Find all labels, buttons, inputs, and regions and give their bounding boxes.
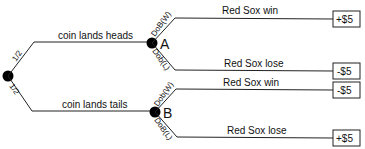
tails-prob: 1/2: [7, 82, 21, 97]
b-lose-payoff: +$5: [336, 133, 353, 144]
heads-prob: 1/2: [10, 48, 24, 63]
node-b-label: B: [163, 105, 172, 121]
heads-branch-line: [8, 42, 152, 76]
b-lose-label: Red Sox lose: [227, 125, 287, 136]
b-win-prob: Dob(W): [152, 80, 175, 108]
a-win-payoff: +$5: [336, 14, 353, 25]
node-a-label: A: [160, 36, 170, 52]
a-lose-payoff: -$5: [337, 66, 352, 77]
a-lose-label: Red Sox lose: [224, 58, 284, 69]
tails-label: coin lands tails: [62, 99, 128, 110]
b-win-label: Red Sox win: [223, 77, 279, 88]
b-win-payoff: -$5: [337, 85, 352, 96]
a-win-line: [152, 18, 333, 43]
b-win-line: [155, 89, 333, 112]
a-win-label: Red Sox win: [222, 5, 278, 16]
probability-tree: 1/2 1/2 coin lands heads coin lands tail…: [0, 0, 365, 149]
heads-label: coin lands heads: [58, 30, 133, 41]
